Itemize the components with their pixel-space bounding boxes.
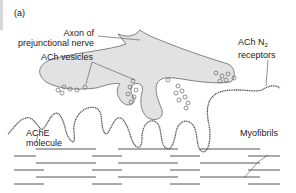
ach-receptors-subscript: 2 <box>265 42 268 48</box>
ache-label: AChE molecule <box>26 128 62 148</box>
axon-label-line1: Axon of <box>18 28 94 38</box>
ache-label-line2: molecule <box>26 138 62 148</box>
ache-label-line1: AChE <box>26 128 62 138</box>
myofibrils <box>14 149 280 184</box>
myofibrils-label: Myofibrils <box>240 128 278 138</box>
ach-receptors-line2: receptors <box>238 50 276 60</box>
ach-vesicles-label: ACh vesicles <box>41 52 93 62</box>
ach-receptors-main: ACh N <box>238 37 265 47</box>
ach-receptors-label: ACh N2 receptors <box>238 37 276 60</box>
axon-label: Axon of prejunctional nerve <box>18 28 94 48</box>
axon-label-line2: prejunctional nerve <box>18 38 94 48</box>
panel-label: (a) <box>14 8 25 18</box>
